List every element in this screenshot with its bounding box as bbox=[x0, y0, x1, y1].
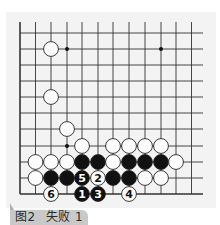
star-point-icon bbox=[65, 47, 69, 51]
white-stone-icon bbox=[60, 122, 75, 137]
move-6-white-stone: 6 bbox=[44, 187, 59, 202]
black-stone bbox=[44, 171, 59, 186]
move-3-black-stone: 3 bbox=[91, 187, 106, 202]
star-points bbox=[65, 47, 163, 148]
move-number: 4 bbox=[125, 188, 133, 201]
figure-label: 图2 bbox=[15, 210, 36, 224]
move-number: 6 bbox=[47, 188, 55, 201]
black-stone-icon bbox=[122, 155, 137, 170]
white-stone-icon bbox=[106, 139, 121, 154]
move-4-white-stone: 4 bbox=[122, 187, 137, 202]
move-5-black-stone: 5 bbox=[75, 171, 90, 186]
move-number: 2 bbox=[94, 172, 102, 185]
white-stone-icon bbox=[60, 155, 75, 170]
go-diagram: 526134 图2失败 1 bbox=[0, 0, 220, 225]
move-2-white-stone: 2 bbox=[91, 171, 106, 186]
white-stone-icon bbox=[106, 155, 121, 170]
white-stone bbox=[60, 155, 75, 170]
move-number: 5 bbox=[78, 172, 86, 185]
white-stone bbox=[138, 139, 153, 154]
black-stone-icon bbox=[44, 171, 59, 186]
figure-title: 失败 1 bbox=[46, 210, 83, 224]
black-stone bbox=[154, 155, 169, 170]
figure-caption: 图2失败 1 bbox=[10, 210, 88, 225]
black-stone-icon bbox=[138, 155, 153, 170]
black-stone bbox=[75, 155, 90, 170]
white-stone bbox=[28, 155, 43, 170]
white-stone bbox=[106, 155, 121, 170]
black-stone-icon bbox=[91, 155, 106, 170]
white-stone bbox=[154, 139, 169, 154]
black-stone-icon bbox=[60, 171, 75, 186]
white-stone bbox=[169, 155, 184, 170]
move-1-black-stone: 1 bbox=[75, 187, 90, 202]
white-stone bbox=[60, 122, 75, 137]
black-stone-icon bbox=[75, 155, 90, 170]
white-stone-icon bbox=[44, 155, 59, 170]
white-stone-icon bbox=[138, 139, 153, 154]
black-stone bbox=[106, 171, 121, 186]
white-stone bbox=[28, 171, 43, 186]
move-number: 1 bbox=[78, 188, 86, 201]
white-stone bbox=[138, 171, 153, 186]
white-stone bbox=[75, 139, 90, 154]
star-point-icon bbox=[65, 144, 69, 148]
white-stone-icon bbox=[44, 42, 59, 57]
black-stone-icon bbox=[154, 155, 169, 170]
white-stone-icon bbox=[44, 90, 59, 105]
white-stone-icon bbox=[28, 155, 43, 170]
white-stone bbox=[106, 139, 121, 154]
white-stone bbox=[44, 155, 59, 170]
white-stone-icon bbox=[154, 139, 169, 154]
white-stone bbox=[122, 139, 137, 154]
white-stone-icon bbox=[28, 171, 43, 186]
white-stone bbox=[154, 171, 169, 186]
white-stone-icon bbox=[169, 155, 184, 170]
move-number: 3 bbox=[94, 188, 102, 201]
caption-tab-flap bbox=[10, 203, 14, 210]
white-stone-icon bbox=[138, 171, 153, 186]
white-stone bbox=[44, 42, 59, 57]
white-stone bbox=[44, 90, 59, 105]
black-stone bbox=[122, 171, 137, 186]
black-stone bbox=[60, 171, 75, 186]
white-stone-icon bbox=[154, 171, 169, 186]
go-board: 526134 bbox=[0, 0, 220, 225]
star-point-icon bbox=[159, 47, 163, 51]
white-stone-icon bbox=[75, 139, 90, 154]
black-stone bbox=[138, 155, 153, 170]
black-stone-icon bbox=[122, 171, 137, 186]
white-stone-icon bbox=[122, 139, 137, 154]
black-stone bbox=[122, 155, 137, 170]
black-stone-icon bbox=[106, 171, 121, 186]
black-stone bbox=[91, 155, 106, 170]
